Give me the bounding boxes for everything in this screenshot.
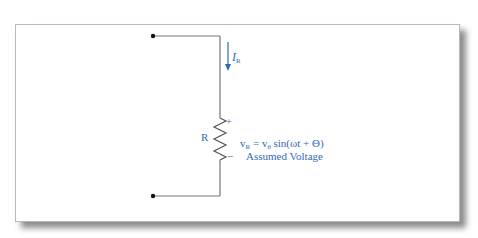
current-label: IR: [232, 51, 241, 65]
circuit-diagram: [0, 0, 478, 238]
current-arrow-head-icon: [225, 64, 231, 71]
minus-polarity-label: −: [227, 151, 233, 162]
resistor-label: R: [201, 132, 208, 143]
plus-polarity-label: +: [226, 117, 232, 127]
assumed-voltage-caption: Assumed Voltage: [246, 151, 323, 162]
bottom-terminal-node: [151, 194, 155, 198]
resistor-symbol: [214, 118, 226, 160]
top-terminal-node: [151, 34, 155, 38]
